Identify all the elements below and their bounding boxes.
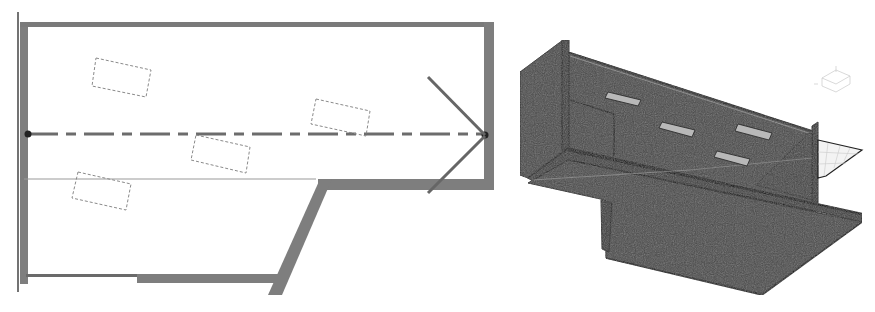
plan-rooflight-2	[311, 99, 370, 136]
axo-rooflight-2	[659, 122, 695, 137]
axo-right-inner-panel	[756, 130, 812, 200]
axo-corner-post	[562, 40, 569, 150]
axo-rooflight-1	[605, 92, 641, 106]
plan-rooflight-4	[72, 172, 131, 210]
axo-right-post	[812, 122, 818, 212]
plan-rooflight-1	[92, 58, 151, 97]
axo-left-fin	[601, 200, 612, 252]
plan-section-endpoint-left	[25, 131, 32, 138]
plan-rooflight-3	[191, 135, 250, 173]
plan-bottom-wall-thin	[26, 274, 140, 277]
axo-rooflight-3	[735, 124, 772, 140]
axo-back-wall-top-edge	[570, 53, 818, 133]
axo-glazed-canopy	[818, 140, 862, 178]
plan-view	[0, 0, 500, 312]
axo-back-wall	[568, 52, 815, 230]
axo-ledge	[528, 148, 862, 222]
plan-bottom-wall	[137, 274, 279, 283]
figure-stage: Floor plan view 3D axonometric view (und…	[0, 0, 875, 312]
plan-right-wall	[484, 22, 494, 190]
plan-step-wall	[318, 179, 494, 190]
axo-bottom-slab	[528, 160, 862, 294]
axo-left-end-wall	[520, 40, 568, 178]
axo-slab-edge	[606, 258, 762, 295]
plan-door-leaf-upper	[428, 77, 485, 135]
axo-faint-guide-line	[532, 170, 690, 180]
plan-top-wall	[20, 22, 494, 27]
plan-left-wall	[20, 22, 28, 284]
axo-rooflight-4	[714, 151, 750, 166]
axo-inner-panel-edge	[570, 100, 614, 156]
view-cube-icon[interactable]	[814, 66, 850, 92]
